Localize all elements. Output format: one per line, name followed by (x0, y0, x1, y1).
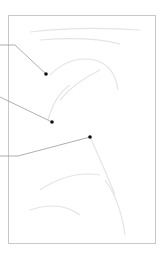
leader-line (0, 45, 46, 74)
callout-3 (0, 135, 92, 156)
marker-dot-icon (50, 120, 54, 124)
faint-sketch-content (30, 28, 140, 235)
callout-leaders (0, 45, 92, 156)
leader-line (0, 97, 52, 122)
leader-line (0, 137, 90, 156)
marker-dot-icon (44, 72, 48, 76)
marker-dot-icon (88, 135, 92, 139)
callout-1 (0, 45, 48, 76)
annotated-figure (0, 0, 162, 254)
